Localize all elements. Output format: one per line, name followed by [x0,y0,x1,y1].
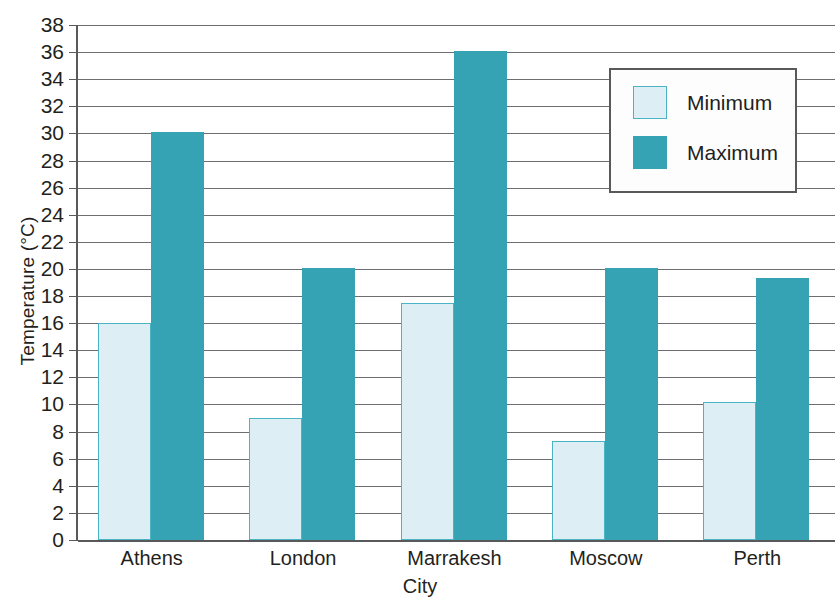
bar-moscow-maximum [605,268,658,540]
legend-item-maximum: Maximum [633,136,778,169]
y-axis-tick [69,161,78,162]
bar-athens-maximum [151,132,204,540]
y-axis-tick [69,486,78,487]
legend-label-minimum: Minimum [687,91,772,115]
y-axis-tick-label: 36 [2,41,64,62]
y-axis-tick-label: 24 [2,204,64,225]
y-axis-tick-label: 6 [2,448,64,469]
y-axis-tick [69,79,78,80]
bar-london-maximum [302,268,355,540]
y-axis-tick [69,432,78,433]
x-axis-tick-label: Marrakesh [407,546,501,570]
legend-item-minimum: Minimum [633,86,772,119]
y-axis-tick [69,323,78,324]
y-axis-tick-label: 8 [2,421,64,442]
y-axis-tick [69,540,78,541]
y-axis-tick [69,215,78,216]
y-axis-tick [69,188,78,189]
legend: Minimum Maximum [609,68,797,193]
y-axis-tick [69,296,78,297]
y-axis-tick-label: 16 [2,312,64,333]
bar-marrakesh-minimum [401,303,454,540]
y-axis-tick [69,459,78,460]
gridline [78,540,835,542]
y-axis-tick [69,404,78,405]
y-axis-tick-label: 22 [2,231,64,252]
bar-perth-maximum [756,278,809,540]
y-axis-tick [69,269,78,270]
y-axis-tick [69,513,78,514]
x-axis-title: City [0,575,840,598]
x-axis-tick-label: Perth [733,546,781,570]
x-axis-tick-label: London [270,546,337,570]
x-axis-tick-label: Moscow [569,546,642,570]
y-axis-tick [69,52,78,53]
y-axis-tick-label: 18 [2,285,64,306]
y-axis-tick [69,242,78,243]
y-axis-tick [69,133,78,134]
y-axis-tick-label: 0 [2,529,64,550]
x-axis-tick-labels: AthensLondonMarrakeshMoscowPerth [76,546,833,576]
y-axis-tick-labels: 02468101214161820222426283032343638 [0,0,64,604]
y-axis-tick [69,377,78,378]
bar-marrakesh-maximum [454,51,507,540]
legend-swatch-maximum-icon [633,136,667,169]
bar-london-minimum [249,418,302,540]
y-axis-tick-label: 12 [2,366,64,387]
legend-label-maximum: Maximum [687,141,778,165]
y-axis-tick-label: 10 [2,393,64,414]
y-axis-tick-label: 14 [2,339,64,360]
y-axis-tick-label: 2 [2,502,64,523]
y-axis-tick-label: 34 [2,68,64,89]
y-axis-tick-label: 38 [2,14,64,35]
bar-chart: Temperature (°C) 02468101214161820222426… [0,0,840,604]
y-axis-tick-label: 28 [2,150,64,171]
bar-moscow-minimum [552,441,605,540]
y-axis-tick [69,106,78,107]
y-axis-tick-label: 32 [2,95,64,116]
bar-perth-minimum [703,402,756,540]
y-axis-tick-label: 20 [2,258,64,279]
y-axis-tick [69,25,78,26]
legend-swatch-minimum-icon [633,86,667,119]
y-axis-tick-label: 26 [2,177,64,198]
y-axis-tick [69,350,78,351]
y-axis-tick-label: 4 [2,475,64,496]
x-axis-tick-label: Athens [121,546,183,570]
bar-athens-minimum [98,323,151,540]
y-axis-tick-label: 30 [2,122,64,143]
